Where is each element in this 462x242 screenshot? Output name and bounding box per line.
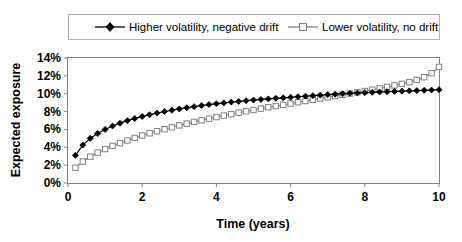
data-point-marker xyxy=(429,70,434,75)
y-tick-label: 10% xyxy=(37,87,61,101)
data-point-marker xyxy=(140,133,145,138)
data-point-marker xyxy=(429,87,435,93)
series-line xyxy=(75,67,439,168)
data-point-marker xyxy=(147,112,153,118)
data-point-marker xyxy=(273,95,279,101)
data-point-marker xyxy=(228,99,234,105)
data-point-marker xyxy=(421,87,427,93)
data-point-marker xyxy=(206,102,212,108)
data-point-marker xyxy=(73,165,78,170)
data-point-marker xyxy=(213,101,219,107)
data-point-marker xyxy=(221,100,227,106)
y-tick-label: 2% xyxy=(44,158,62,172)
data-point-marker xyxy=(117,120,123,126)
data-point-marker xyxy=(110,143,115,148)
data-point-marker xyxy=(288,94,294,100)
data-point-marker xyxy=(154,110,160,116)
legend-label-b: Lower volatility, no drift xyxy=(322,21,439,33)
data-point-marker xyxy=(266,105,271,110)
y-tick-label: 4% xyxy=(44,140,62,154)
data-point-marker xyxy=(295,94,301,100)
data-point-marker xyxy=(258,96,264,102)
plot-area-border xyxy=(68,58,440,184)
open-square-icon xyxy=(300,24,307,31)
data-point-marker xyxy=(236,98,242,104)
data-point-marker xyxy=(229,111,234,116)
data-point-marker xyxy=(191,104,197,110)
data-point-marker xyxy=(407,79,412,84)
data-point-marker xyxy=(88,154,93,159)
data-point-marker xyxy=(102,146,107,151)
y-tick-label: 0% xyxy=(44,176,62,190)
data-point-marker xyxy=(280,102,285,107)
data-point-marker xyxy=(177,123,182,128)
data-point-marker xyxy=(125,138,130,143)
data-point-marker xyxy=(169,107,175,113)
data-point-marker xyxy=(169,125,174,130)
data-point-marker xyxy=(161,109,167,115)
y-axis-title: Expected exposure xyxy=(9,63,23,178)
data-point-marker xyxy=(414,77,419,82)
data-point-marker xyxy=(406,88,412,94)
data-point-marker xyxy=(436,87,442,93)
data-point-marker xyxy=(147,131,152,136)
data-point-marker xyxy=(132,135,137,140)
data-point-marker xyxy=(288,101,293,106)
series-lower-volatility xyxy=(73,64,442,170)
data-point-marker xyxy=(199,103,205,109)
y-tick-label: 12% xyxy=(37,69,61,83)
data-point-marker xyxy=(399,81,404,86)
x-axis-title: Time (years) xyxy=(216,217,289,231)
series-line xyxy=(75,90,439,156)
data-point-marker xyxy=(95,150,100,155)
data-point-marker xyxy=(251,97,257,103)
data-point-marker xyxy=(421,74,426,79)
chart-container: Higher volatility, negative drift Lower … xyxy=(0,0,462,242)
data-point-marker xyxy=(139,113,145,119)
series-higher-volatility xyxy=(72,87,442,159)
data-point-marker xyxy=(199,118,204,123)
data-point-marker xyxy=(236,110,241,115)
data-point-marker xyxy=(221,113,226,118)
x-tick-label: 2 xyxy=(139,190,146,204)
data-point-marker xyxy=(280,95,286,101)
data-point-marker xyxy=(214,114,219,119)
data-point-marker xyxy=(132,115,138,121)
data-point-marker xyxy=(176,106,182,112)
data-point-marker xyxy=(436,64,441,69)
data-point-marker xyxy=(399,88,405,94)
y-tick-label: 8% xyxy=(44,105,62,119)
data-point-marker xyxy=(117,140,122,145)
y-axis-ticks: 0%2%4%6%8%10%12%14% xyxy=(37,51,68,190)
legend-label-a: Higher volatility, negative drift xyxy=(129,21,279,33)
x-tick-label: 4 xyxy=(213,190,220,204)
data-point-marker xyxy=(184,105,190,111)
x-tick-label: 10 xyxy=(432,190,446,204)
data-point-marker xyxy=(191,119,196,124)
x-axis-ticks: 0246810 xyxy=(65,183,446,204)
data-point-marker xyxy=(102,126,108,132)
data-point-marker xyxy=(265,96,271,102)
data-point-marker xyxy=(80,159,85,164)
y-tick-label: 6% xyxy=(44,122,62,136)
data-point-marker xyxy=(162,127,167,132)
y-tick-label: 14% xyxy=(37,51,61,65)
data-point-marker xyxy=(295,100,300,105)
data-point-marker xyxy=(251,107,256,112)
data-point-marker xyxy=(154,129,159,134)
expected-exposure-line-chart: Higher volatility, negative drift Lower … xyxy=(0,0,462,242)
data-point-marker xyxy=(184,121,189,126)
data-point-marker xyxy=(414,88,420,94)
data-point-marker xyxy=(273,103,278,108)
x-tick-label: 0 xyxy=(65,190,72,204)
data-point-marker xyxy=(258,106,263,111)
data-point-marker xyxy=(124,118,130,124)
data-point-marker xyxy=(392,83,397,88)
x-tick-label: 6 xyxy=(287,190,294,204)
data-point-marker xyxy=(110,123,116,129)
data-point-marker xyxy=(391,88,397,94)
data-point-marker xyxy=(243,109,248,114)
data-point-marker xyxy=(206,116,211,121)
data-point-marker xyxy=(243,98,249,104)
x-tick-label: 8 xyxy=(361,190,368,204)
